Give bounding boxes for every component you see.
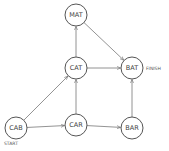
node-bar: BAR — [121, 117, 143, 139]
node-cab: CAB — [5, 117, 27, 139]
finish-label: FINISH — [146, 66, 161, 71]
graph-diagram: MATCATBATCABCARBAR START FINISH — [0, 0, 169, 151]
edge-mat-to-bat — [84, 23, 124, 61]
start-label: START — [4, 141, 18, 146]
node-mat: MAT — [65, 4, 87, 26]
node-car: CAR — [65, 114, 87, 136]
edge-cab-to-car — [27, 126, 65, 128]
node-label: CAT — [70, 64, 82, 72]
node-label: BAT — [126, 64, 138, 72]
node-label: CAR — [69, 121, 83, 129]
node-label: MAT — [69, 11, 83, 19]
node-label: CAB — [9, 124, 22, 132]
node-cat: CAT — [65, 57, 87, 79]
edge-car-to-bar — [87, 126, 121, 128]
node-bat: BAT — [121, 57, 143, 79]
edge-cab-to-cat — [24, 76, 68, 120]
node-label: BAR — [125, 124, 139, 132]
